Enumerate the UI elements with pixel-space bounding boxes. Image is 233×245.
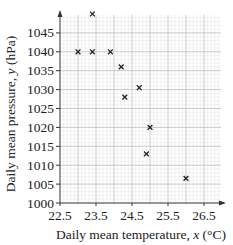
x-tick-label: 24.5 [120, 208, 144, 223]
y-tick-label: 1025 [27, 101, 54, 116]
y-tick-label: 1040 [27, 44, 54, 59]
y-tick-label: 1005 [27, 177, 54, 192]
x-tick-label: 22.5 [48, 208, 72, 223]
y-axis-arrow-icon [58, 10, 63, 17]
y-tick-label: 1035 [27, 63, 54, 78]
x-tick-label: 23.5 [84, 208, 108, 223]
x-axis-ticks: 22.523.524.525.526.5 [48, 203, 216, 223]
axes [58, 10, 227, 206]
y-tick-label: 1015 [27, 139, 54, 154]
y-axis-ticks: 1000100510101015102010251030103510401045 [27, 25, 60, 210]
scatter-chart: 1000100510101015102010251030103510401045… [0, 0, 233, 245]
y-tick-label: 1010 [27, 158, 54, 173]
y-axis-label: Daily mean pressure, y (hPa) [3, 36, 18, 192]
y-tick-label: 1020 [27, 120, 54, 135]
y-tick-label: 1045 [27, 25, 54, 40]
grid-minor-lines [60, 15, 221, 203]
x-tick-label: 26.5 [192, 208, 216, 223]
x-axis-arrow-icon [219, 201, 226, 206]
x-axis-label: Daily mean temperature, x (°C) [56, 227, 226, 242]
y-tick-label: 1030 [27, 82, 54, 97]
x-tick-label: 25.5 [156, 208, 180, 223]
